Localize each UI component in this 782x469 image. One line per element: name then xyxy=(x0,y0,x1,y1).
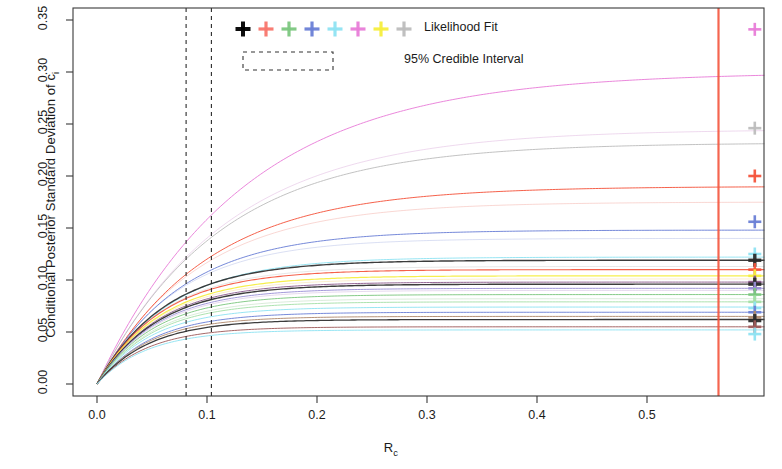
likelihood-fit-marker-curve-04 xyxy=(748,215,761,228)
legend-marker-7 xyxy=(397,22,412,37)
chart-curve-curve-11 xyxy=(97,288,764,384)
figure-container: Conditional Posterior Standard Deviation… xyxy=(0,0,782,469)
y-tick-label-0.20: 0.20 xyxy=(36,154,50,194)
chart-curve-curve-18 xyxy=(97,327,764,384)
legend-marker-4 xyxy=(328,22,343,37)
chart-plot-area xyxy=(0,0,782,469)
chart-curve-curve-02 xyxy=(97,144,764,384)
x-tick-label-0.4: 0.4 xyxy=(512,408,562,422)
plot-frame xyxy=(73,8,764,396)
y-axis-title-subscript: i xyxy=(51,72,61,74)
legend-glyphs-layer xyxy=(236,22,412,71)
likelihood-fit-markers-layer xyxy=(748,23,761,341)
legend-marker-6 xyxy=(374,22,389,37)
x-tick-label-0.1: 0.1 xyxy=(182,408,232,422)
y-tick-label-0.30: 0.30 xyxy=(36,50,50,90)
y-tick-label-0.00: 0.00 xyxy=(36,362,50,402)
curves-layer xyxy=(97,75,764,384)
legend-marker-5 xyxy=(351,22,366,37)
legend-marker-2 xyxy=(282,22,297,37)
chart-curve-curve-03 xyxy=(97,187,764,384)
legend-marker-0 xyxy=(236,22,251,37)
chart-curve-curve-17 xyxy=(97,320,764,384)
reference-lines-layer xyxy=(186,8,718,396)
likelihood-fit-marker-curve-02 xyxy=(748,122,761,135)
chart-curve-curve-13 xyxy=(97,302,764,384)
legend-label-likelihood-fit: Likelihood Fit xyxy=(424,20,498,34)
likelihood-fit-marker-curve-03 xyxy=(748,170,761,183)
x-axis-title-text: R xyxy=(384,440,394,455)
y-tick-label-0.05: 0.05 xyxy=(36,310,50,350)
legend-label-credible-interval: 95% Credible Interval xyxy=(404,52,524,66)
chart-curve-curve-14 xyxy=(97,307,764,384)
x-tick-label-0.5: 0.5 xyxy=(622,408,672,422)
x-axis-title-subscript: c xyxy=(393,448,398,458)
chart-curve-curve-19 xyxy=(97,330,764,384)
likelihood-fit-marker-curve-01 xyxy=(748,23,761,36)
x-axis-title: Rc xyxy=(0,440,782,458)
legend-credible-interval-box xyxy=(243,52,333,70)
y-tick-label-0.15: 0.15 xyxy=(36,206,50,246)
legend-marker-3 xyxy=(305,22,320,37)
axis-frame-layer xyxy=(73,8,764,396)
x-tick-label-0.2: 0.2 xyxy=(292,408,342,422)
chart-curve-faint-07 xyxy=(97,299,764,384)
y-tick-label-0.10: 0.10 xyxy=(36,258,50,298)
y-tick-label-0.35: 0.35 xyxy=(36,0,50,38)
chart-curve-curve-15 xyxy=(97,312,764,384)
y-tick-label-0.25: 0.25 xyxy=(36,102,50,142)
x-tick-label-0.0: 0.0 xyxy=(72,408,122,422)
legend-marker-1 xyxy=(259,22,274,37)
x-tick-label-0.3: 0.3 xyxy=(402,408,452,422)
